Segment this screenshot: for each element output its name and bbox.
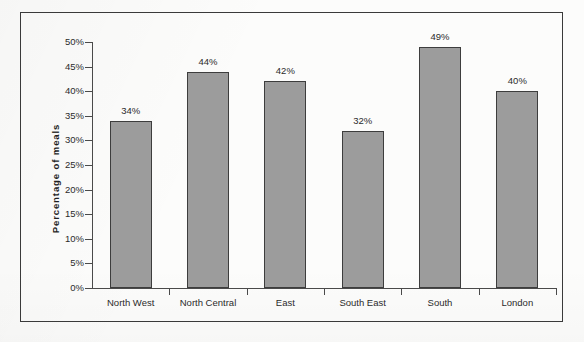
x-axis-tick bbox=[247, 288, 248, 295]
y-axis-tick bbox=[85, 239, 93, 240]
bar bbox=[110, 121, 152, 288]
x-axis-end-tick bbox=[556, 288, 557, 295]
y-axis-tick-label: 30% bbox=[38, 134, 84, 145]
bar-value-label: 32% bbox=[333, 115, 393, 126]
y-axis-tick-label: 25% bbox=[38, 159, 84, 170]
y-axis-tick-label: 15% bbox=[38, 208, 84, 219]
bar bbox=[342, 131, 384, 288]
y-axis-tick bbox=[85, 42, 93, 43]
y-axis-tick-label: 0% bbox=[38, 282, 84, 293]
y-axis-tick bbox=[85, 67, 93, 68]
y-axis-tick bbox=[85, 116, 93, 117]
y-axis-tick-label: 45% bbox=[38, 61, 84, 72]
y-axis-tick bbox=[85, 140, 93, 141]
bar-value-label: 49% bbox=[410, 31, 470, 42]
y-axis-tick-label: 10% bbox=[38, 233, 84, 244]
x-axis-tick bbox=[169, 288, 170, 295]
y-axis-tick-label: 40% bbox=[38, 85, 84, 96]
chart-page: Percentage of meals 0%5%10%15%20%25%30%3… bbox=[0, 0, 584, 342]
y-axis-tick-label: 20% bbox=[38, 184, 84, 195]
y-axis-tick bbox=[85, 91, 93, 92]
bar-value-label: 44% bbox=[178, 56, 238, 67]
y-axis-tick-label: 35% bbox=[38, 110, 84, 121]
bar bbox=[187, 72, 229, 288]
x-axis-tick bbox=[479, 288, 480, 295]
y-axis-tick bbox=[85, 263, 93, 264]
y-axis-tick bbox=[85, 288, 93, 289]
x-axis-category-label: London bbox=[467, 297, 567, 308]
y-axis-tick-label: 5% bbox=[38, 257, 84, 268]
bar bbox=[419, 47, 461, 288]
bar bbox=[264, 81, 306, 288]
bar bbox=[496, 91, 538, 288]
y-axis-tick bbox=[85, 190, 93, 191]
bar-value-label: 40% bbox=[487, 75, 547, 86]
x-axis-tick bbox=[401, 288, 402, 295]
y-axis-tick-label: 50% bbox=[38, 36, 84, 47]
y-axis-tick bbox=[85, 165, 93, 166]
bar-value-label: 34% bbox=[101, 105, 161, 116]
bar-value-label: 42% bbox=[255, 65, 315, 76]
x-axis-tick bbox=[324, 288, 325, 295]
y-axis-tick bbox=[85, 214, 93, 215]
